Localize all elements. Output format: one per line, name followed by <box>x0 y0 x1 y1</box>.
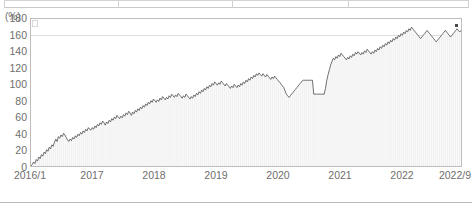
plot-svg <box>31 19 461 166</box>
y-axis-tick-140: 140 <box>0 46 27 56</box>
y-axis-tick-100: 100 <box>0 79 27 89</box>
table-border-bottom <box>4 7 469 8</box>
table-strip-above-chart <box>0 0 472 9</box>
y-axis-tick-180: 180 <box>0 13 27 23</box>
x-axis-tick-2019: 2019 <box>204 169 227 181</box>
cumulative-return-chart: (%) 180160140120100806040200 2016/120172… <box>0 9 472 198</box>
x-axis-tick-2017: 2017 <box>80 169 103 181</box>
bottom-divider <box>0 202 472 203</box>
x-axis-tick-2020: 2020 <box>266 169 289 181</box>
table-column-divider <box>232 0 233 8</box>
series-area-fill <box>31 27 461 166</box>
y-axis-tick-20: 20 <box>0 145 27 155</box>
x-axis-tick-2021: 2021 <box>328 169 351 181</box>
chart-legend <box>32 20 38 27</box>
table-column-divider <box>348 0 349 8</box>
y-axis-tick-40: 40 <box>0 129 27 139</box>
y-axis-tick-160: 160 <box>0 30 27 40</box>
x-axis-tick-2022: 2022 <box>390 169 413 181</box>
plot-area <box>30 18 462 167</box>
x-axis-tick-2022-9: 2022/9 <box>439 169 471 181</box>
y-axis-tick-60: 60 <box>0 112 27 122</box>
y-axis-tick-120: 120 <box>0 63 27 73</box>
table-column-divider <box>118 0 119 8</box>
last-point-marker <box>455 24 458 27</box>
x-axis-tick-2016-1: 2016/1 <box>14 169 46 181</box>
x-axis-tick-2018: 2018 <box>142 169 165 181</box>
table-border-top <box>4 0 469 1</box>
y-axis-tick-80: 80 <box>0 96 27 106</box>
table-edge-right <box>468 0 469 8</box>
x-axis-tick-labels: 2016/12017201820192020202120222022/9 <box>0 169 472 185</box>
table-edge-left <box>4 0 5 8</box>
